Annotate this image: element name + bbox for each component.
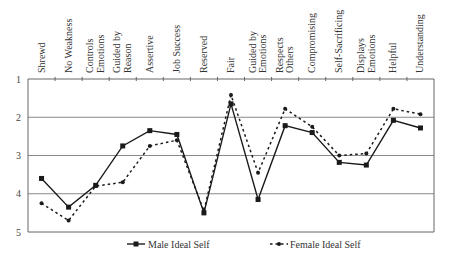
- category-label-line: Guided by: [111, 31, 122, 73]
- category-labels: ShrewdNo WeaknessControlsEmotionsGuided …: [36, 10, 426, 73]
- category-label: RespectsOthers: [274, 37, 296, 73]
- square-marker-icon: [120, 143, 125, 148]
- gridlines: [28, 117, 434, 194]
- category-label-line: Reserved: [198, 36, 209, 73]
- circle-marker-icon: [148, 144, 152, 148]
- circle-marker-icon: [256, 171, 260, 175]
- legend-item-female: Female Ideal Self: [270, 239, 361, 250]
- category-label-line: Controls: [84, 38, 95, 73]
- square-marker-icon: [337, 160, 342, 165]
- series-line: [42, 104, 421, 213]
- category-label: Shrewd: [36, 42, 47, 73]
- circle-marker-icon: [202, 209, 206, 213]
- category-label-line: Self-Sacrificing: [333, 10, 344, 73]
- category-label-line: No Weakness: [63, 19, 74, 73]
- square-marker-icon: [134, 242, 139, 247]
- circle-marker-icon: [364, 152, 368, 156]
- category-label: Self-Sacrificing: [333, 10, 344, 73]
- category-label-line: Reason: [122, 44, 133, 73]
- category-label-line: Emotions: [257, 35, 268, 73]
- category-label: No Weakness: [63, 19, 74, 73]
- legend-label-female: Female Ideal Self: [290, 239, 361, 250]
- category-label: Fair: [225, 56, 236, 73]
- category-label-line: Shrewd: [36, 42, 47, 73]
- category-label-line: Guided by: [247, 31, 258, 73]
- category-label-line: Understanding: [414, 14, 425, 73]
- category-label-line: Job Success: [171, 25, 182, 73]
- category-label: Helpful: [387, 42, 398, 73]
- circle-marker-icon: [391, 107, 395, 111]
- series-line: [42, 95, 421, 220]
- category-label-line: Helpful: [387, 42, 398, 73]
- square-marker-icon: [418, 125, 423, 130]
- square-marker-icon: [174, 132, 179, 137]
- y-tick-label: 2: [16, 112, 21, 123]
- circle-marker-icon: [337, 154, 341, 158]
- series-male-ideal-self: [39, 101, 423, 215]
- category-label-line: Fair: [225, 56, 236, 73]
- legend-label-male: Male Ideal Self: [148, 239, 210, 250]
- category-label: Job Success: [171, 25, 182, 73]
- circle-marker-icon: [94, 184, 98, 188]
- category-label-line: Compromising: [306, 13, 317, 73]
- category-label-line: Assertive: [144, 35, 155, 73]
- category-label: Understanding: [414, 14, 425, 73]
- legend-item-male: Male Ideal Self: [127, 239, 210, 250]
- y-tick-label: 5: [16, 227, 21, 238]
- category-label: ControlsEmotions: [84, 35, 106, 73]
- line-chart: 12345 ShrewdNo WeaknessControlsEmotionsG…: [0, 0, 451, 265]
- square-marker-icon: [283, 123, 288, 128]
- category-label-line: Respects: [274, 37, 285, 73]
- square-marker-icon: [391, 118, 396, 123]
- category-label-line: Displays: [355, 38, 366, 73]
- circle-marker-icon: [310, 125, 314, 129]
- square-marker-icon: [66, 205, 71, 210]
- series-female-ideal-self: [40, 93, 423, 222]
- data-series: [39, 93, 423, 222]
- y-axis-ticks: 12345: [16, 74, 21, 238]
- square-marker-icon: [256, 197, 261, 202]
- category-label: Compromising: [306, 13, 317, 73]
- circle-marker-icon: [67, 219, 71, 223]
- category-label: DisplaysEmotions: [355, 35, 377, 73]
- category-label: Guided byEmotions: [247, 31, 269, 73]
- y-tick-label: 1: [16, 74, 21, 85]
- square-marker-icon: [39, 176, 44, 181]
- category-label-line: Others: [284, 46, 295, 73]
- circle-marker-icon: [277, 242, 281, 246]
- category-label: Guided byReason: [111, 31, 133, 73]
- y-tick-label: 3: [16, 150, 21, 161]
- category-label: Assertive: [144, 35, 155, 73]
- category-label-line: Emotions: [366, 35, 377, 73]
- circle-marker-icon: [121, 180, 125, 184]
- circle-marker-icon: [229, 93, 233, 97]
- circle-marker-icon: [418, 112, 422, 116]
- legend: Male Ideal Self Female Ideal Self: [127, 239, 361, 250]
- category-label: Reserved: [198, 36, 209, 73]
- circle-marker-icon: [175, 138, 179, 142]
- circle-marker-icon: [40, 201, 44, 205]
- circle-marker-icon: [283, 107, 287, 111]
- category-label-line: Emotions: [95, 35, 106, 73]
- square-marker-icon: [147, 128, 152, 133]
- y-tick-label: 4: [16, 188, 21, 199]
- square-marker-icon: [364, 163, 369, 168]
- square-marker-icon: [310, 130, 315, 135]
